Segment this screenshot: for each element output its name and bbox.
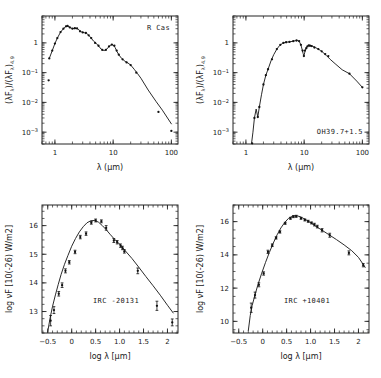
x-tick-label: 2 xyxy=(356,338,360,346)
source-label: IRC -20131 xyxy=(93,297,139,305)
source-label: IRC +10401 xyxy=(284,297,330,305)
data-points xyxy=(47,79,49,81)
model-curve xyxy=(248,216,365,331)
y-tick-label: 16 xyxy=(29,222,38,230)
axes-frame xyxy=(42,16,178,144)
y-tick-label: 13 xyxy=(29,308,38,316)
panel-top-right-canvas: 110100110−110−210−3OH39.7+1.5λ (μm)(λFλ)… xyxy=(191,0,381,189)
source-label: OH39.7+1.5 xyxy=(317,128,363,136)
y-tick-label: 10−3 xyxy=(22,127,38,136)
plot-panel-irc-20131: −0.500.51.01.5213141516IRC -20131log λ [… xyxy=(0,189,190,378)
data-points xyxy=(49,219,173,326)
x-tick-label: 100 xyxy=(165,149,178,157)
sed-figure: 110100110−110−210−3R Casλ (μm)(λFλ)/(λFλ… xyxy=(0,0,381,378)
y-tick-label: 10−2 xyxy=(213,98,229,107)
axes-frame xyxy=(233,205,369,333)
x-tick-label: 1 xyxy=(244,149,248,157)
model-curve xyxy=(49,26,171,124)
x-tick-label: 100 xyxy=(356,149,369,157)
y-tick-label: 14 xyxy=(220,251,229,259)
y-tick-label: 10−1 xyxy=(213,68,229,77)
y-tick-label: 10−3 xyxy=(213,127,229,136)
data-points xyxy=(48,25,172,132)
y-tick-label: 10−2 xyxy=(22,98,38,107)
x-axis-label: λ (μm) xyxy=(97,163,123,172)
plot-panel-r-cas: 110100110−110−210−3R Casλ (μm)(λFλ)/(λFλ… xyxy=(0,0,190,189)
x-tick-label: 0 xyxy=(69,338,73,346)
x-tick-label: 1.0 xyxy=(114,338,125,346)
x-tick-label: 1.0 xyxy=(305,338,316,346)
x-tick-label: 10 xyxy=(109,149,118,157)
panel-bottom-left-canvas: −0.500.51.01.5213141516IRC -20131log λ [… xyxy=(0,189,190,378)
x-axis-label: log λ [μm] xyxy=(280,352,321,361)
y-tick-label: 10 xyxy=(220,318,229,326)
y-axis-label: (λFλ)/(λFλ)4.9 xyxy=(196,56,206,104)
y-tick-label: 16 xyxy=(220,218,229,226)
plot-panel-oh39: 110100110−110−210−3OH39.7+1.5λ (μm)(λFλ)… xyxy=(191,0,381,189)
x-tick-label: 0.5 xyxy=(281,338,292,346)
y-tick-label: 10−1 xyxy=(22,68,38,77)
y-axis-label: log νF [10(-26) W/m2] xyxy=(5,225,14,313)
y-axis-label: (λFλ)/(λFλ)4.9 xyxy=(5,56,15,104)
x-tick-label: 2 xyxy=(165,338,169,346)
y-tick-label: 15 xyxy=(29,251,38,259)
x-axis-label: λ (μm) xyxy=(288,163,314,172)
axis-ticks xyxy=(233,205,369,333)
panel-top-left-canvas: 110100110−110−210−3R Casλ (μm)(λFλ)/(λFλ… xyxy=(0,0,190,189)
plot-panel-irc-10401: −0.500.51.01.5210121416IRC +10401log λ [… xyxy=(191,189,381,378)
x-tick-label: −0.5 xyxy=(230,338,247,346)
x-tick-label: 1 xyxy=(53,149,57,157)
x-tick-label: 1.5 xyxy=(138,338,149,346)
model-curve xyxy=(48,220,173,331)
y-axis-label: log νF [10(-26) W/m2] xyxy=(196,225,205,313)
y-tick-label: 1 xyxy=(34,39,38,47)
x-tick-label: 10 xyxy=(300,149,309,157)
x-tick-label: 0 xyxy=(260,338,264,346)
y-tick-label: 14 xyxy=(29,279,38,287)
x-tick-label: 1.5 xyxy=(329,338,340,346)
source-label: R Cas xyxy=(147,24,170,32)
x-tick-label: −0.5 xyxy=(39,338,56,346)
x-tick-label: 0.5 xyxy=(90,338,101,346)
panel-bottom-right-canvas: −0.500.51.01.5210121416IRC +10401log λ [… xyxy=(191,189,381,378)
axis-ticks xyxy=(42,16,178,144)
y-tick-label: 12 xyxy=(220,285,229,293)
x-axis-label: log λ [μm] xyxy=(89,352,130,361)
y-tick-label: 1 xyxy=(225,39,229,47)
